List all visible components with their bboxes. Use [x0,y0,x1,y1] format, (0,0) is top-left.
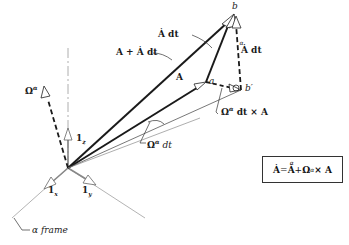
omega-dt-angle-arc [148,120,164,124]
omega-alpha-vector [48,100,68,168]
rotation-reference-line [68,118,200,168]
label-unit-y: 1y [82,186,92,197]
unit-y-shaft [68,168,86,179]
equation-plus: + [295,165,303,175]
label-Adot-dt: Ȧ dt [158,30,179,39]
point-b-label: b [232,2,238,11]
point-a-label: a [209,77,214,86]
equation-lhs: Ȧ [273,165,280,175]
unit-z-arrowhead [64,128,72,140]
label-omega-dt-cross-A: Ωα dt × A [221,106,268,117]
equation-omega: Ω [302,165,310,175]
point-b-prime-label: b′ [245,84,253,93]
equation-rhs1: Ȧα [288,165,295,175]
equation-cross-A: × A [314,165,332,175]
diagram-canvas: b a b′ A A + Ȧ dt Ȧ dt Ȧ dtα Ωα dt × A Ω… [0,0,349,245]
vector-A [68,86,200,168]
omega-alpha-arrowhead [41,86,50,98]
label-A: A [176,73,183,82]
vector-Adot-dt [206,26,228,82]
leader-frame [14,218,30,230]
label-alpha-frame: α frame [32,226,68,235]
label-A-plus-Adot-dt: A + Ȧ dt [116,48,157,57]
label-Adot-alpha-dt: Ȧ dtα [241,46,266,55]
equation-equals: = [280,165,288,175]
vector-Adot-alpha-dt [236,24,241,90]
label-unit-x: 1x [48,186,58,197]
thin-line-to-b-prime [68,90,241,168]
equation-box: Ȧ = Ȧα + Ωα × A [262,156,343,183]
label-omega-dt: Ωα dt [147,139,172,150]
unit-y-arrowhead [83,175,96,185]
label-omega-alpha: Ωα [25,85,38,96]
unit-x-shaft [52,168,68,182]
label-unit-z: 1z [76,134,86,145]
